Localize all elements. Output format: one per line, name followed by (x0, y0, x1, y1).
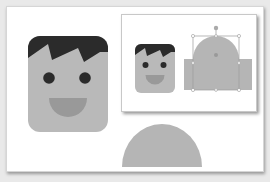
center-handle[interactable] (214, 53, 218, 57)
handle-right-mid[interactable] (238, 62, 241, 65)
handle-bottom-mid[interactable] (215, 89, 218, 92)
rotate-handle[interactable] (214, 26, 218, 30)
dome-shape-selected[interactable] (184, 26, 252, 92)
small-left-eye (143, 62, 149, 68)
handle-bottom-right[interactable] (237, 88, 240, 91)
right-eye (79, 72, 91, 84)
handle-bottom-left[interactable] (191, 88, 194, 91)
small-right-eye (161, 62, 167, 68)
cartoon-face (28, 36, 108, 132)
left-eye (43, 72, 55, 84)
inset-editing-view (121, 14, 257, 112)
handle-top-right[interactable] (237, 34, 240, 37)
handle-top-mid[interactable] (215, 35, 218, 38)
handle-top-left[interactable] (191, 34, 194, 37)
handle-left-mid[interactable] (192, 62, 195, 65)
half-circle-shape (122, 124, 202, 167)
cartoon-face-small (135, 44, 175, 93)
inset-canvas (122, 15, 256, 111)
